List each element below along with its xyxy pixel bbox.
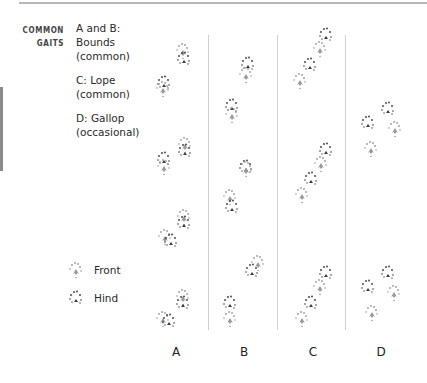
front-paw-icon: [294, 186, 310, 204]
front-paw-icon: [155, 80, 171, 98]
column-label-a: A: [166, 345, 186, 359]
column-label-b: B: [234, 345, 254, 359]
column-label-c: C: [303, 345, 323, 359]
front-paw-icon: [292, 72, 308, 90]
section-label-line2: GAITS: [12, 37, 64, 50]
hind-paw-icon: [360, 114, 376, 132]
legend-item-front: Front: [68, 258, 121, 282]
legend: Front Hind: [68, 258, 121, 314]
column-divider: [208, 35, 209, 330]
front-paw-icon: [294, 310, 310, 328]
hind-paw-icon: [175, 294, 191, 312]
hind-paw-icon: [244, 262, 260, 280]
section-label-line1: COMMON: [12, 24, 64, 37]
column-divider: [277, 35, 278, 330]
gait-note-text: (common): [76, 49, 166, 63]
gait-note-text: C: Lope: [76, 73, 166, 87]
hind-paw-icon: [161, 312, 177, 330]
front-paw-icon: [364, 304, 380, 322]
hind-paw-icon: [360, 278, 376, 296]
side-accent-bar: [0, 87, 3, 171]
front-paw-icon: [68, 261, 84, 279]
gait-note-text: A and B:: [76, 21, 166, 35]
front-paw-icon: [224, 106, 240, 124]
column-divider: [345, 35, 346, 330]
column-label-d: D: [371, 345, 391, 359]
front-paw-icon: [238, 66, 254, 84]
gait-notes: A and B: Bounds (common) C: Lope (common…: [76, 21, 166, 149]
gait-note-lope: C: Lope (common): [76, 73, 166, 101]
hind-paw-icon: [176, 50, 192, 68]
gait-note-text: D: Gallop: [76, 111, 166, 125]
legend-front-label: Front: [94, 264, 121, 276]
hind-paw-icon: [224, 198, 240, 216]
gait-note-text: (occasional): [76, 125, 166, 139]
front-paw-icon: [238, 160, 254, 178]
section-label: COMMON GAITS: [12, 24, 64, 50]
hind-paw-icon: [68, 289, 84, 307]
gait-note-text: (common): [76, 87, 166, 101]
front-paw-icon: [363, 140, 379, 158]
legend-item-hind: Hind: [68, 286, 121, 310]
legend-hind-label: Hind: [94, 292, 118, 304]
hind-paw-icon: [177, 142, 193, 160]
hind-paw-icon: [163, 232, 179, 250]
gait-note-gallop: D: Gallop (occasional): [76, 111, 166, 139]
front-paw-icon: [222, 310, 238, 328]
front-paw-icon: [387, 120, 403, 138]
front-paw-icon: [156, 158, 172, 176]
hind-paw-icon: [176, 214, 192, 232]
hind-paw-icon: [380, 264, 396, 282]
front-paw-icon: [386, 284, 402, 302]
gait-note-text: Bounds: [76, 35, 166, 49]
gait-note-bounds: A and B: Bounds (common): [76, 21, 166, 63]
hind-paw-icon: [380, 100, 396, 118]
top-rule: [19, 2, 427, 4]
